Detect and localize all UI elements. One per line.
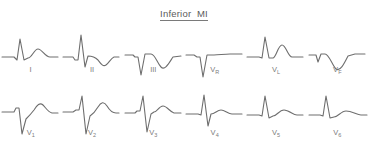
ecg-lead-label-v2: V2 [61,128,122,137]
lead-label-subscript: 4 [216,132,219,138]
ecg-lead-row-top: IIIIIIVRVLVF [0,27,368,83]
ecg-lead-vf: VF [307,27,368,83]
ecg-lead-label-vr: VR [184,65,245,74]
ecg-lead-vl: VL [245,27,306,83]
ecg-waveform-ii [61,27,122,83]
ecg-lead-row-bottom: V1V2V3V4V5V6 [0,86,368,146]
ecg-lead-v6: V6 [307,86,368,146]
lead-label-subscript: F [338,69,341,75]
lead-label-base: V [211,128,216,137]
ecg-lead-vr: VR [184,27,245,83]
page-title: Inferior MI [0,8,368,19]
ecg-lead-label-v1: V1 [0,128,61,137]
ecg-lead-iii: III [123,27,184,83]
ecg-lead-v1: V1 [0,86,61,146]
ecg-lead-v5: V5 [245,86,306,146]
lead-label-base: V [27,128,32,137]
ecg-lead-ii: II [61,27,122,83]
ecg-lead-i: I [0,27,61,83]
ecg-lead-label-v6: V6 [307,128,368,137]
lead-label-subscript: R [215,69,219,75]
lead-label-subscript: 2 [93,132,96,138]
ecg-waveform-i [0,27,61,83]
lead-label-subscript: 1 [32,132,35,138]
lead-label-subscript: 3 [154,132,157,138]
ecg-lead-v4: V4 [184,86,245,146]
ecg-lead-v3: V3 [123,86,184,146]
lead-label-base: II [90,65,94,74]
ecg-lead-label-vf: VF [307,65,368,74]
ecg-lead-label-v4: V4 [184,128,245,137]
ecg-waveform-iii [123,27,184,83]
ecg-waveform-vl [245,27,306,83]
ecg-lead-label-v5: V5 [245,128,306,137]
lead-label-base: III [150,65,156,74]
ecg-lead-label-v3: V3 [123,128,184,137]
ecg-diagram-page: Inferior MI IIIIIIVRVLVF V1V2V3V4V5V6 [0,0,368,155]
lead-label-subscript: 6 [338,132,341,138]
ecg-lead-label-ii: II [61,65,122,74]
lead-label-base: I [30,65,32,74]
lead-label-subscript: L [277,69,280,75]
ecg-lead-label-iii: III [123,65,184,74]
page-title-text: Inferior MI [160,8,208,21]
ecg-lead-label-i: I [0,65,61,74]
ecg-lead-label-vl: VL [245,65,306,74]
lead-label-subscript: 5 [277,132,280,138]
ecg-lead-v2: V2 [61,86,122,146]
